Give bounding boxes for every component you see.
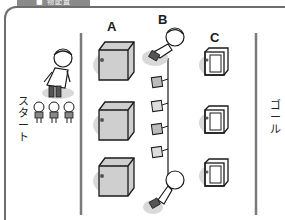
illustration xyxy=(0,0,285,220)
box-a-3 xyxy=(93,158,134,196)
child-figure xyxy=(49,102,59,123)
start-char: ト xyxy=(17,132,29,144)
start-label: ス タ ー ト xyxy=(17,96,29,144)
child-figure xyxy=(34,102,44,123)
children-group xyxy=(34,102,74,123)
helper-figure-bottom xyxy=(143,171,184,214)
label-b: B xyxy=(158,12,167,27)
activity-layout-diagram: ■ 物配置 xyxy=(0,0,285,220)
box-c-2 xyxy=(199,106,228,134)
box-c-3 xyxy=(199,159,228,187)
card-b-1 xyxy=(151,76,168,87)
card-b-2 xyxy=(151,100,168,111)
goal-label: ゴ ー ル xyxy=(269,100,281,136)
label-c: C xyxy=(210,30,219,45)
card-b-3 xyxy=(151,123,168,134)
box-a-1 xyxy=(93,42,134,80)
teacher-figure xyxy=(42,49,74,99)
box-c-1 xyxy=(199,48,228,76)
box-a-2 xyxy=(93,102,134,140)
child-figure xyxy=(64,102,74,123)
card-b-4 xyxy=(151,146,168,157)
label-a: A xyxy=(107,19,116,34)
goal-char: ル xyxy=(269,124,281,136)
helper-figure-top xyxy=(142,28,184,66)
